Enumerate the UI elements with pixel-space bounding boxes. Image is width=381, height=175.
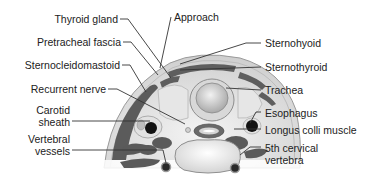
- label-vertebra-line1: 5th cervical: [265, 142, 318, 154]
- vertebral-vessel-right: [231, 164, 240, 173]
- label-sternothyroid: Sternothyroid: [265, 61, 327, 73]
- label-trachea: Trachea: [265, 84, 303, 96]
- vertebral-vessel-left: [162, 163, 171, 172]
- label-vertebral-vessels-line2: vessels: [35, 145, 70, 157]
- recurrent-nerve: [186, 128, 191, 133]
- label-esophagus: Esophagus: [265, 107, 318, 119]
- label-recurrent-nerve: Recurrent nerve: [31, 83, 106, 95]
- thyroid-gland: [158, 85, 188, 120]
- label-carotid-sheath-line2: sheath: [38, 116, 70, 128]
- label-longus-colli-muscle: Longus colli muscle: [265, 124, 357, 136]
- label-vertebra-line2: vertebra: [265, 154, 304, 166]
- label-pretracheal-fascia: Pretracheal fascia: [37, 36, 121, 48]
- label-carotid-sheath-line1: Carotid: [36, 104, 70, 116]
- label-vertebral-vessels-line1: Vertebral: [28, 133, 70, 145]
- neck-cross-section-diagram: Thyroid gland Pretracheal fascia Sternoc…: [0, 0, 381, 175]
- label-sternocleidomastoid: Sternocleidomastoid: [25, 59, 120, 71]
- label-sternohyoid: Sternohyoid: [265, 37, 321, 49]
- label-approach: Approach: [174, 11, 219, 23]
- label-thyroid-gland: Thyroid gland: [54, 13, 118, 25]
